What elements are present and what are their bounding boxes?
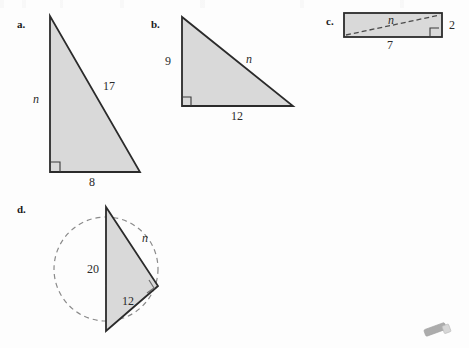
eraser-smudge	[424, 322, 451, 336]
label-b-leg-horizontal: 12	[231, 109, 243, 124]
problem-label-d: d.	[17, 203, 26, 215]
triangle-d-shape	[106, 207, 158, 331]
label-d-lower-side: 12	[122, 294, 134, 309]
label-d-diameter: 20	[87, 262, 99, 277]
eraser-body	[424, 322, 447, 336]
figures-canvas	[0, 0, 469, 348]
triangle-b-shape	[182, 17, 293, 106]
problem-label-a: a.	[17, 18, 25, 30]
figure-a-right-triangle	[50, 16, 140, 172]
problem-label-b: b.	[151, 18, 160, 30]
problem-label-c: c.	[326, 15, 334, 27]
figure-b-right-triangle	[182, 17, 293, 106]
eraser-tip	[442, 324, 451, 334]
label-c-width: 7	[387, 38, 393, 53]
label-a-leg-horizontal: 8	[89, 175, 95, 190]
figure-d-inscribed-triangle	[54, 207, 158, 331]
label-a-leg-vertical: n	[33, 92, 39, 107]
label-c-diagonal: n	[388, 13, 394, 28]
label-d-upper-side: n	[142, 231, 148, 246]
label-c-height: 2	[449, 18, 455, 33]
label-a-hypotenuse: 17	[103, 79, 115, 94]
label-b-leg-vertical: 9	[165, 54, 171, 69]
label-b-hypotenuse: n	[246, 52, 252, 67]
worksheet-page: a. n 17 8 b. 9 n 12 c. n 2 7 d. 20 n 12	[0, 0, 469, 348]
triangle-a-shape	[50, 16, 140, 172]
